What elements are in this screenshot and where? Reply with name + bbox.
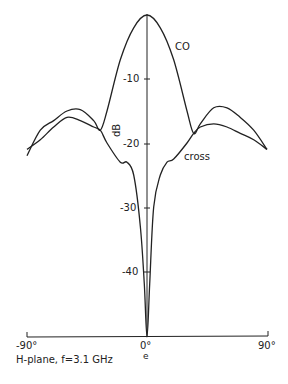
y-tick-label-40: -40 bbox=[122, 266, 138, 277]
y-axis-label: dB bbox=[111, 124, 122, 137]
x-tick-label-90: 90° bbox=[258, 340, 276, 351]
y-tick-label-30: -30 bbox=[120, 202, 136, 213]
chart-canvas bbox=[0, 0, 288, 384]
cross-label: cross bbox=[184, 151, 210, 162]
x-axis-label: e bbox=[143, 351, 149, 361]
chart-caption: H-plane, f=3.1 GHz bbox=[16, 354, 113, 365]
x-tick-label-0: 0° bbox=[140, 340, 151, 351]
radiation-pattern-chart: CO cross dB -10 -20 -30 -40 -90° 0° 90° … bbox=[0, 0, 288, 384]
y-tick-label-10: -10 bbox=[123, 73, 139, 84]
y-tick-label-20: -20 bbox=[123, 138, 139, 149]
co-label: CO bbox=[175, 41, 190, 52]
x-tick-label-m90: -90° bbox=[16, 340, 37, 351]
